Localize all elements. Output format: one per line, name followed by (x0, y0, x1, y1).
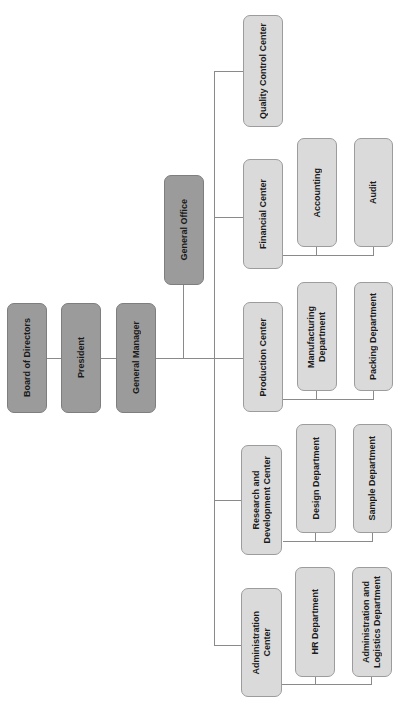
node-label: Board of Directors (22, 318, 33, 397)
node-rnd-center: Research and Development Center (241, 445, 282, 555)
node-label: HR Department (310, 589, 321, 655)
node-quality-control-center: Quality Control Center (243, 15, 283, 127)
connector-manufacturing (316, 391, 317, 399)
node-label: Design Department (311, 437, 322, 520)
connector-hr (315, 677, 316, 684)
node-label: Production Center (258, 318, 269, 397)
connector-accounting (316, 247, 317, 255)
connector-admin-depts (281, 684, 372, 685)
node-packing-department: Packing Department (354, 282, 393, 391)
connector-production-depts (283, 399, 374, 400)
node-label: Sample Department (367, 436, 378, 521)
node-label: Packing Department (368, 293, 379, 380)
node-label: General Office (179, 199, 190, 261)
node-hr-department: HR Department (295, 567, 335, 677)
node-label: President (76, 337, 87, 378)
node-label: Manufacturing Department (306, 306, 328, 368)
connector-financial (214, 217, 243, 218)
node-accounting: Accounting (297, 138, 337, 247)
connector-sample (372, 533, 373, 541)
node-label: Financial Center (258, 179, 269, 249)
node-label: Audit (368, 181, 379, 204)
connector-production (214, 358, 243, 359)
node-sample-department: Sample Department (353, 424, 392, 533)
node-production-center: Production Center (243, 302, 283, 412)
connector-packing (373, 391, 374, 399)
org-chart: Board of Directors President General Man… (0, 0, 407, 702)
node-label: Accounting (312, 168, 323, 218)
connector-board-president (46, 358, 62, 359)
node-manufacturing-department: Manufacturing Department (297, 282, 337, 391)
node-board-of-directors: Board of Directors (7, 303, 47, 413)
connector-admin (214, 645, 243, 646)
node-label: General Manager (131, 321, 142, 394)
node-administration-logistics-department: Administration and Logistics Department (352, 567, 392, 677)
connector-rnd-depts (283, 541, 373, 542)
node-label: Research and Development Center (251, 456, 273, 544)
connector-rnd (214, 500, 243, 501)
connector-general-office (183, 284, 184, 358)
node-label: Administration and Logistics Department (361, 576, 383, 668)
node-general-office: General Office (164, 175, 204, 285)
connector-president-gm (101, 358, 117, 359)
node-design-department: Design Department (296, 424, 336, 533)
node-audit: Audit (354, 138, 393, 247)
node-label: Quality Control Center (258, 23, 269, 119)
connector-design (315, 533, 316, 541)
connector-quality (214, 71, 243, 72)
node-financial-center: Financial Center (243, 159, 283, 269)
connector-financial-depts (283, 255, 374, 256)
node-administration-center: Administration Center (241, 588, 282, 697)
node-label: Administration Center (251, 611, 273, 675)
connector-audit (373, 247, 374, 255)
connector-logistics (371, 677, 372, 684)
node-president: President (61, 303, 101, 413)
node-general-manager: General Manager (116, 303, 156, 413)
